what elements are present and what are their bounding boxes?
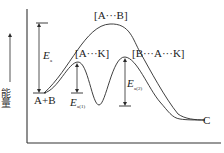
ea-label: E: [42, 49, 50, 61]
y-axis-label: 能量: [0, 87, 11, 108]
reactants-label: A+B: [34, 94, 55, 106]
transition-state-ab-label: [A···B]: [94, 9, 128, 21]
energy-diagram: 能量 E a E a(1) E a(2) [A···B] [A···K] [B·…: [0, 0, 224, 153]
axes: [27, 9, 221, 143]
transition-state-bak-label: [B···A···K]: [132, 47, 185, 59]
activation-energy-uncatalyzed: E a: [33, 23, 53, 93]
ea1-label: E: [69, 96, 77, 108]
activation-energy-1: E a(1): [69, 65, 85, 109]
ea1-subscript: a(1): [77, 104, 85, 109]
product-label: C: [203, 114, 210, 126]
y-axis-label-group: 能量: [0, 35, 11, 108]
ea2-label: E: [126, 77, 134, 89]
catalyzed-curve: [44, 57, 205, 120]
ea2-subscript: a(2): [134, 86, 142, 91]
ea-subscript: a: [50, 58, 53, 63]
activation-energy-2: E a(2): [119, 60, 142, 106]
transition-state-ak-label: [A···K]: [75, 47, 109, 59]
